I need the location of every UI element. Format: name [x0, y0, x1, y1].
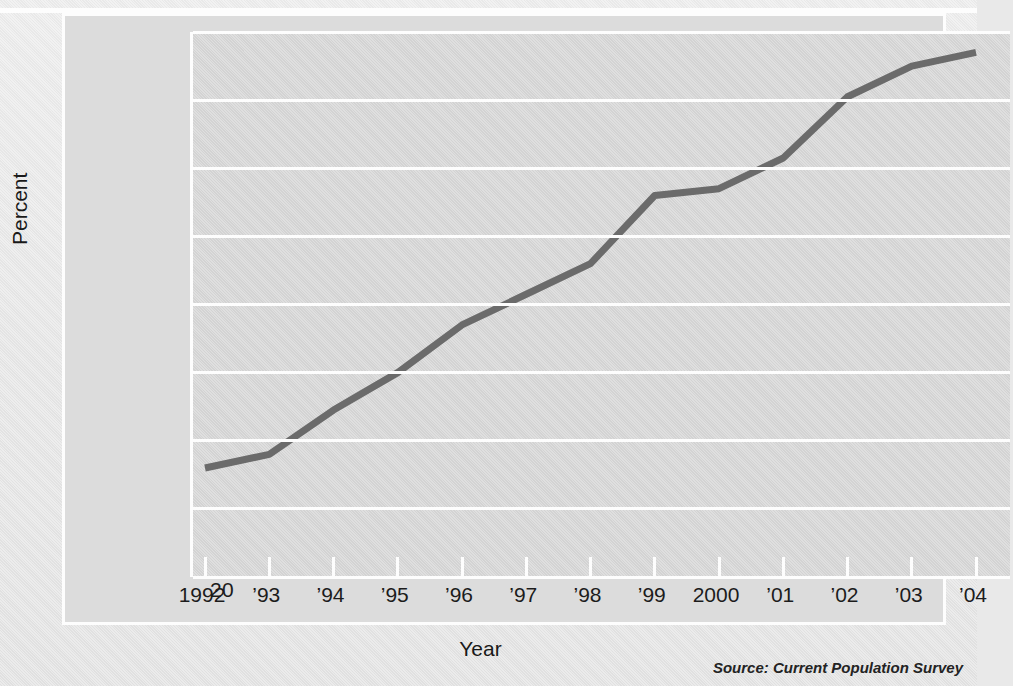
y-axis-title: Percent [8, 173, 32, 245]
x-tick-93 [268, 557, 271, 577]
x-tick-95 [396, 557, 399, 577]
gridline-24 [193, 303, 1010, 306]
x-tick-label-95: ’95 [381, 583, 409, 607]
x-tick-2000 [718, 557, 721, 577]
x-tick-01 [782, 557, 785, 577]
x-tick-96 [461, 557, 464, 577]
x-tick-label-02: ’02 [830, 583, 858, 607]
gridline-21 [193, 507, 1010, 510]
x-tick-label-1992: 1992 [179, 583, 226, 607]
gridline-22 [193, 439, 1010, 442]
x-tick-label-96: ’96 [445, 583, 473, 607]
x-tick-02 [846, 557, 849, 577]
plot-area [190, 32, 1010, 577]
x-axis-title-text: Year [459, 637, 501, 660]
x-tick-label-2000: 2000 [693, 583, 740, 607]
gridline-27 [193, 99, 1010, 102]
x-tick-04 [975, 557, 978, 577]
x-tick-97 [525, 557, 528, 577]
x-tick-label-93: ’93 [252, 583, 280, 607]
x-axis-title: Year [0, 637, 977, 661]
gridline-25 [193, 235, 1010, 238]
x-tick-label-97: ’97 [509, 583, 537, 607]
source-note: Source: Current Population Survey [713, 659, 963, 676]
gridline-26 [193, 167, 1010, 170]
x-tick-98 [589, 557, 592, 577]
x-axis-tick-labels: 1992’93’94’95’96’97’98’992000’01’02’03’0… [190, 577, 1010, 625]
x-tick-1992 [204, 557, 207, 577]
x-tick-label-03: ’03 [895, 583, 923, 607]
x-tick-label-04: ’04 [959, 583, 987, 607]
x-tick-label-99: ’99 [638, 583, 666, 607]
x-tick-03 [910, 557, 913, 577]
x-tick-label-01: ’01 [766, 583, 794, 607]
gridline-28 [193, 31, 1010, 34]
chart-frame: 202122232425262728 1992’93’94’95’96’97’9… [62, 13, 946, 625]
x-tick-label-94: ’94 [316, 583, 344, 607]
x-tick-94 [332, 557, 335, 577]
x-tick-99 [653, 557, 656, 577]
gridline-23 [193, 371, 1010, 374]
x-tick-label-98: ’98 [573, 583, 601, 607]
